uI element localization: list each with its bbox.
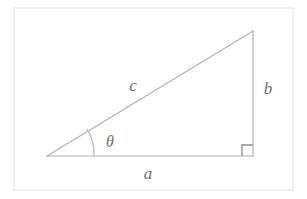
triangle-figure: a b c θ xyxy=(0,0,307,199)
figure-background xyxy=(0,0,307,199)
triangle-diagram-canvas: a b c θ xyxy=(0,0,307,199)
opposite-side-label: b xyxy=(264,79,273,98)
theta-angle-label: θ xyxy=(106,133,114,150)
adjacent-side-label: a xyxy=(144,164,153,183)
hypotenuse-side-label: c xyxy=(129,76,137,95)
